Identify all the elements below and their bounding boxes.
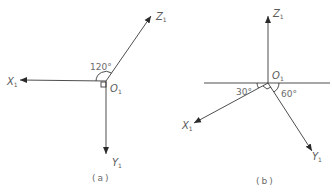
caption-a: (a) [92,173,111,183]
caption-b: (b) [256,176,275,186]
z-axis-a [106,16,151,81]
angle-label-60: 60° [281,89,297,99]
angle-arc-60 [274,83,279,92]
z-axis-label-a: Z1 [155,11,167,23]
angle-label-30: 30° [236,87,252,97]
origin-label-b: O1 [272,70,284,82]
angle-label-120: 120° [90,62,112,72]
x-axis-label-b: X1 [181,120,193,132]
x-axis-a [20,80,106,81]
right-angle-marker-a [101,82,106,87]
y-axis-label-a: Y1 [112,157,122,169]
diagram-b: 30° 60° O1 X1 Y1 Z1 (b) [181,8,330,186]
diagram-a: 120° O1 X1 Y1 Z1 (a) [6,11,167,183]
y-axis-label-b: Y1 [312,151,322,163]
origin-label-a: O1 [110,83,122,95]
angle-arc-30 [257,83,259,88]
z-axis-label-b: Z1 [272,8,284,20]
x-axis-label-a: X1 [6,76,18,88]
axonometric-diagrams: 120° O1 X1 Y1 Z1 (a) 30° 60° O1 X1 Y1 Z1… [0,0,332,194]
x-axis-b [194,83,268,123]
